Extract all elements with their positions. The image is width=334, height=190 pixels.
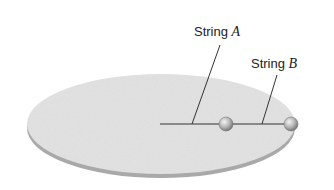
string-a-label: String A: [194, 25, 240, 39]
string-b-label-variable: B: [289, 56, 298, 71]
inner-ball: [219, 117, 233, 131]
disc-diagram: [0, 0, 334, 190]
string-a-label-variable: A: [232, 24, 241, 39]
outer-ball: [284, 117, 298, 131]
string-b-label-prefix: String: [251, 56, 285, 71]
string-b-label: String B: [251, 57, 297, 71]
string-a-label-prefix: String: [194, 24, 228, 39]
